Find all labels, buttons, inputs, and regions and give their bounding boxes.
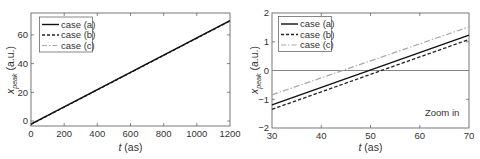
- left-chart: 0 200 400 600 800 1000 1200 0 20 40 60 t…: [4, 13, 241, 153]
- right-xtick-3: 60: [415, 130, 426, 141]
- right-xtick-2: 50: [365, 130, 376, 141]
- left-xtick-1: 200: [56, 128, 72, 139]
- left-legend: case (a) case (b) case (c): [40, 17, 96, 52]
- left-xtick-0: 0: [28, 128, 33, 139]
- left-ytick-1: 20: [17, 87, 28, 98]
- left-legend-case-c: case (c): [61, 40, 95, 51]
- right-chart: 30 40 50 60 70 2 1 0 −1 −2 t (as) xpeak …: [248, 7, 474, 153]
- right-x-axis-label: t (as): [359, 141, 383, 153]
- right-legend-case-c: case (c): [300, 39, 334, 50]
- left-xtick-3: 600: [123, 128, 139, 139]
- left-x-axis-label: t (as): [119, 141, 143, 153]
- right-xtick-4: 70: [464, 130, 475, 141]
- right-legend: case (a) case (b) case (c): [279, 17, 335, 52]
- right-ytick-2: 2: [264, 7, 269, 18]
- figure: 0 200 400 600 800 1000 1200 0 20 40 60 t…: [0, 0, 480, 159]
- left-xtick-2: 400: [89, 128, 105, 139]
- left-y-tick-labels: 0 20 40 60: [17, 29, 28, 126]
- left-xtick-4: 800: [156, 128, 172, 139]
- left-ytick-3: 60: [17, 29, 28, 40]
- right-legend-case-b: case (b): [300, 29, 334, 40]
- left-xtick-6: 1200: [219, 128, 240, 139]
- right-x-tick-labels: 30 40 50 60 70: [267, 130, 475, 141]
- right-ytick-0: 0: [264, 65, 269, 76]
- left-y-axis-label: xpeak (a.u.): [4, 46, 19, 95]
- right-ytick-neg2: −2: [258, 122, 269, 133]
- left-x-tick-labels: 0 200 400 600 800 1000 1200: [28, 128, 240, 139]
- left-legend-case-b: case (b): [61, 29, 95, 40]
- left-ytick-0: 0: [23, 115, 28, 126]
- right-y-axis-label: xpeak (a.u.): [248, 46, 263, 95]
- right-ytick-neg1: −1: [258, 94, 269, 105]
- zoom-in-annotation: Zoom in: [425, 107, 459, 118]
- right-ytick-1: 1: [264, 36, 269, 47]
- left-legend-case-a: case (a): [61, 19, 95, 30]
- right-legend-case-a: case (a): [300, 18, 334, 29]
- right-xtick-1: 40: [316, 130, 327, 141]
- left-xtick-5: 1000: [186, 128, 207, 139]
- left-ytick-2: 40: [17, 58, 28, 69]
